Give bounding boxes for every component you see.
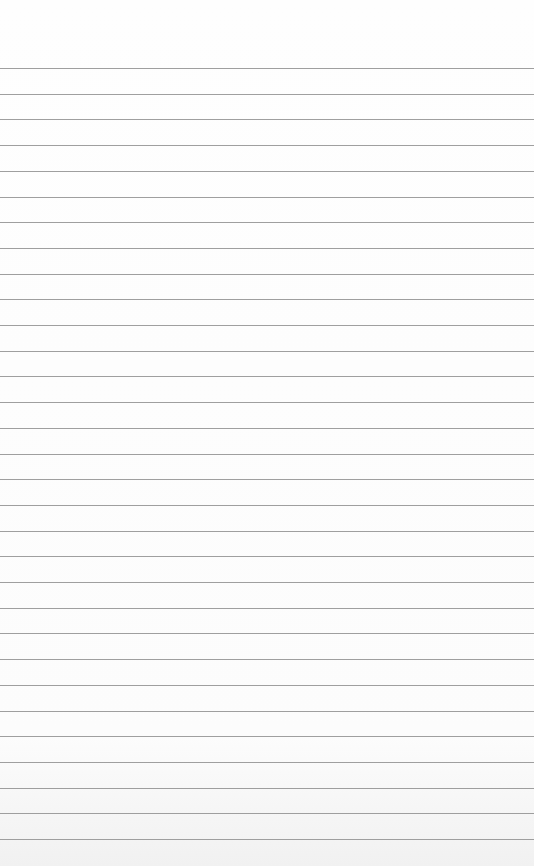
ruled-line <box>0 299 534 300</box>
ruled-line <box>0 531 534 532</box>
ruled-line <box>0 762 534 763</box>
ruled-line <box>0 351 534 352</box>
ruled-line <box>0 505 534 506</box>
ruled-line <box>0 556 534 557</box>
ruled-line <box>0 119 534 120</box>
ruled-line <box>0 145 534 146</box>
ruled-line <box>0 711 534 712</box>
ruled-line <box>0 248 534 249</box>
ruled-line <box>0 428 534 429</box>
ruled-line <box>0 479 534 480</box>
ruled-line <box>0 68 534 69</box>
ruled-line <box>0 839 534 840</box>
ruled-line <box>0 608 534 609</box>
ruled-line <box>0 171 534 172</box>
ruled-line <box>0 402 534 403</box>
ruled-line <box>0 582 534 583</box>
ruled-line <box>0 633 534 634</box>
ruled-line <box>0 659 534 660</box>
ruled-line <box>0 325 534 326</box>
ruled-line <box>0 376 534 377</box>
ruled-line <box>0 94 534 95</box>
ruled-line <box>0 274 534 275</box>
ruled-line <box>0 454 534 455</box>
ruled-line <box>0 222 534 223</box>
ruled-line <box>0 813 534 814</box>
ruled-line <box>0 685 534 686</box>
lined-paper-sheet <box>0 0 534 866</box>
ruled-line <box>0 736 534 737</box>
ruled-line <box>0 788 534 789</box>
ruled-line <box>0 197 534 198</box>
